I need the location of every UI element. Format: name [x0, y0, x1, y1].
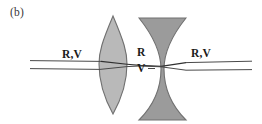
panel-label: (b) [10, 6, 24, 18]
incident-ray-lower [30, 69, 100, 70]
emergent-ray-upper [186, 61, 252, 62]
incident-ray-label: R,V [62, 48, 82, 60]
emergent-ray-label: R,V [191, 47, 211, 59]
biconvex-lens [99, 16, 127, 114]
red-ray-label: R [137, 46, 145, 58]
ray-diagram-canvas [0, 0, 262, 124]
ray-through-concave-lower [161, 67, 186, 70]
incident-ray-upper [30, 61, 101, 62]
optics-figure: (b) R,V R V R,V [0, 0, 262, 124]
emergent-ray-lower [186, 70, 252, 71]
violet-ray-label: V [137, 62, 145, 74]
